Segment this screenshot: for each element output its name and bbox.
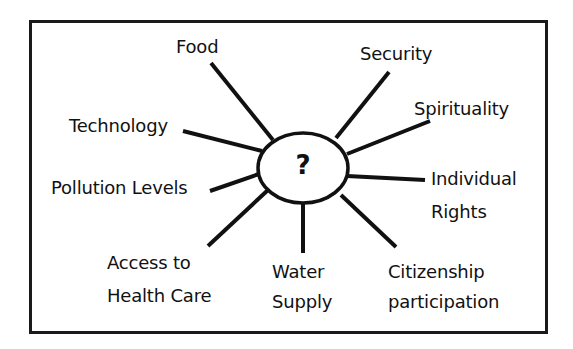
branch-label-citizenship-participation: Citizenshipparticipation xyxy=(388,257,499,317)
branch-label-access-to-health-care: Access toHealth Care xyxy=(107,246,211,312)
branch-label-line: Food xyxy=(176,36,218,57)
branch-label-line: Health Care xyxy=(107,279,211,312)
branch-label-line: participation xyxy=(388,287,499,317)
branch-label-line: Pollution Levels xyxy=(51,177,188,198)
branch-label-spirituality: Spirituality xyxy=(414,98,509,119)
branch-label-food: Food xyxy=(176,36,218,57)
branch-label-line: Individual xyxy=(431,162,517,195)
mind-map-diagram: ? FoodSecuritySpiritualityTechnologyIndi… xyxy=(0,0,573,349)
branch-label-line: Rights xyxy=(431,195,517,228)
branch-label-line: Access to xyxy=(107,246,211,279)
spoke-access-to-health-care xyxy=(208,190,268,246)
branch-label-pollution-levels: Pollution Levels xyxy=(51,177,188,198)
spoke-technology xyxy=(183,131,262,151)
branch-label-line: Supply xyxy=(272,287,332,317)
spoke-security xyxy=(336,72,389,138)
branch-label-water-supply: WaterSupply xyxy=(272,257,332,317)
spoke-individual-rights xyxy=(347,176,425,180)
branch-label-line: Spirituality xyxy=(414,98,509,119)
center-question-mark: ? xyxy=(289,150,317,180)
spoke-food xyxy=(211,63,273,140)
spoke-pollution-levels xyxy=(210,174,259,191)
branch-label-security: Security xyxy=(360,43,432,64)
branch-label-technology: Technology xyxy=(69,115,168,136)
branch-label-line: Water xyxy=(272,257,332,287)
spoke-spirituality xyxy=(347,121,430,154)
branch-label-line: Citizenship xyxy=(388,257,499,287)
branch-label-line: Security xyxy=(360,43,432,64)
branch-label-individual-rights: IndividualRights xyxy=(431,162,517,228)
branch-label-line: Technology xyxy=(69,115,168,136)
spoke-citizenship-participation xyxy=(341,195,396,247)
